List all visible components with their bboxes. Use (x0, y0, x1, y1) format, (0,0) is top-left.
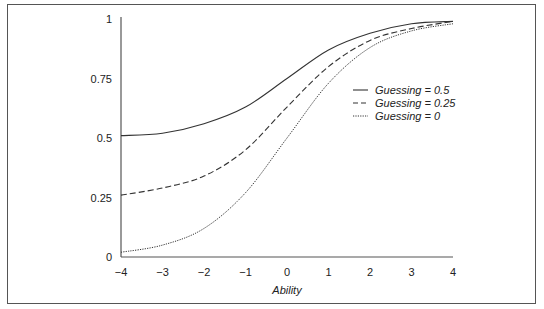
curves (121, 21, 453, 252)
x-tick-label: 4 (450, 266, 456, 278)
curve-dotted (121, 24, 453, 252)
legend-label: Guessing = 0 (375, 110, 441, 122)
x-tick-label: 0 (284, 266, 290, 278)
x-tick-label: 1 (325, 266, 331, 278)
x-axis-title: Ability (271, 284, 303, 296)
y-tick-label: 0.25 (91, 192, 112, 204)
x-tick-label: 3 (408, 266, 414, 278)
x-tick-label: 2 (367, 266, 373, 278)
x-tick-label: −1 (239, 266, 252, 278)
legend-label: Guessing = 0.5 (375, 84, 450, 96)
chart: 00.250.50.751 −4−3−2−101234 Guessing = 0… (0, 0, 544, 309)
y-tick-label: 0 (106, 251, 112, 263)
y-axis-ticks: 00.250.50.751 (91, 13, 112, 263)
y-tick-label: 0.5 (97, 132, 112, 144)
y-tick-label: 0.75 (91, 73, 112, 85)
legend-label: Guessing = 0.25 (375, 97, 456, 109)
x-tick-label: −2 (198, 266, 211, 278)
legend: Guessing = 0.5Guessing = 0.25Guessing = … (353, 84, 456, 122)
y-tick-label: 1 (106, 13, 112, 25)
axes (121, 17, 453, 257)
x-tick-label: −4 (115, 266, 128, 278)
x-tick-label: −3 (156, 266, 169, 278)
x-axis-ticks: −4−3−2−101234 (115, 266, 456, 278)
